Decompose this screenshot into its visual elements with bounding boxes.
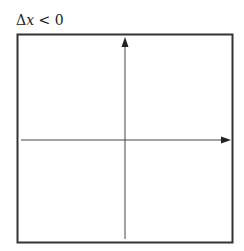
arrow-up-icon [122, 37, 129, 47]
arrow-right-icon [221, 137, 231, 144]
axes-diagram [0, 0, 244, 251]
